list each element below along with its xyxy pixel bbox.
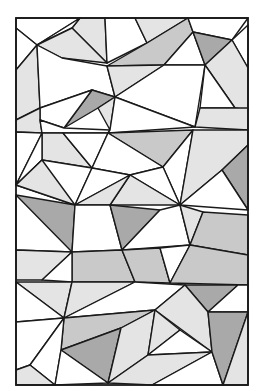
mosaic-polygons xyxy=(16,18,248,385)
mosaic-tile xyxy=(195,108,248,130)
mosaic-svg xyxy=(0,0,259,391)
triangle-mosaic xyxy=(0,0,259,391)
